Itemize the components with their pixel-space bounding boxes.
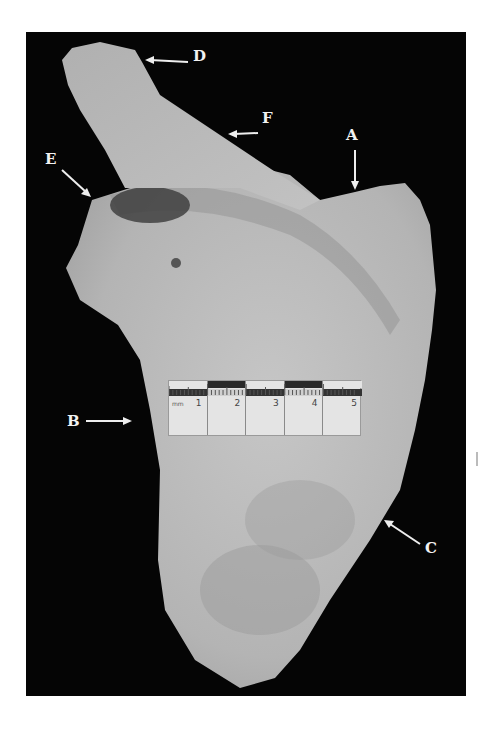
label-a: A: [346, 128, 358, 143]
arrow-d: [150, 60, 188, 62]
scale-number: 1: [196, 398, 202, 408]
label-b: B: [67, 414, 80, 429]
label-c: C: [425, 541, 437, 556]
scale-ticks: [169, 381, 358, 395]
scale-number: 3: [273, 398, 279, 408]
scan-artifact: [476, 452, 478, 466]
scale-number: 4: [312, 398, 318, 408]
annotation-arrows: [26, 32, 466, 696]
scale-number: 2: [234, 398, 240, 408]
arrow-f: [234, 133, 258, 134]
scale-bar: mm 1 2 3 4 5: [168, 380, 361, 436]
specimen-photo: D F A E B C mm 1 2 3 4 5: [26, 32, 466, 696]
label-d: D: [193, 49, 206, 64]
scale-number: 5: [351, 398, 357, 408]
scale-unit: mm: [172, 400, 184, 407]
arrow-e: [62, 170, 86, 192]
arrow-c: [390, 524, 420, 544]
label-e: E: [45, 152, 56, 167]
label-f: F: [262, 111, 273, 126]
